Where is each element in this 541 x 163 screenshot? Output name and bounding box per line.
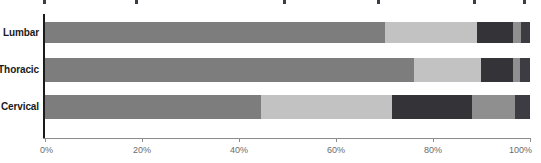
legend-remnant-tick [523, 0, 526, 4]
y-axis-category-label-wrap: Cervical [0, 101, 39, 113]
legend-remnant-tick [43, 0, 46, 4]
y-axis-category-label: Cervical [1, 101, 39, 112]
legend-remnant-tick [377, 0, 380, 4]
x-axis-tick-label: 60% [327, 145, 345, 155]
legend-cropped-remnant [0, 0, 541, 5]
x-axis-tick [45, 138, 46, 142]
bar-segment[interactable] [45, 22, 385, 43]
bar-segment[interactable] [385, 22, 477, 43]
y-axis-category-label: Lumbar [3, 27, 39, 38]
legend-remnant-tick [473, 0, 476, 4]
x-axis-tick-label: 100% [509, 145, 532, 155]
bar-segment[interactable] [45, 95, 261, 119]
x-axis-spine [43, 138, 531, 139]
x-axis-tick [530, 138, 531, 142]
stacked-bar[interactable] [45, 95, 530, 119]
bar-segment[interactable] [513, 58, 520, 82]
legend-remnant-tick [135, 0, 138, 4]
bar-segment[interactable] [513, 22, 521, 43]
bar-segment[interactable] [472, 95, 516, 119]
bar-segment[interactable] [520, 58, 530, 82]
x-axis-tick [142, 138, 143, 142]
stacked-bar[interactable] [45, 58, 530, 82]
x-axis-tick-label: 0% [40, 145, 53, 155]
x-axis-tick-label: 80% [424, 145, 442, 155]
y-axis-category-label-wrap: Lumbar [0, 27, 39, 39]
y-axis-category-label-wrap: Thoracic [0, 64, 39, 76]
x-axis-tick [239, 138, 240, 142]
legend-remnant-tick [283, 0, 286, 4]
bar-segment[interactable] [392, 95, 472, 119]
y-axis-category-label: Thoracic [0, 64, 39, 75]
bar-segment[interactable] [261, 95, 392, 119]
stacked-bar-chart: 0%20%40%60%80%100% LumbarThoracicCervica… [0, 0, 541, 163]
x-axis-tick-label: 40% [230, 145, 248, 155]
bar-segment[interactable] [45, 58, 414, 82]
bar-segment[interactable] [521, 22, 530, 43]
bar-segment[interactable] [515, 95, 530, 119]
x-axis-tick [433, 138, 434, 142]
stacked-bar[interactable] [45, 22, 530, 43]
x-axis-tick-label: 20% [133, 145, 151, 155]
bar-segment[interactable] [481, 58, 513, 82]
bar-segment[interactable] [414, 58, 482, 82]
bar-segment[interactable] [477, 22, 513, 43]
x-axis-tick [336, 138, 337, 142]
